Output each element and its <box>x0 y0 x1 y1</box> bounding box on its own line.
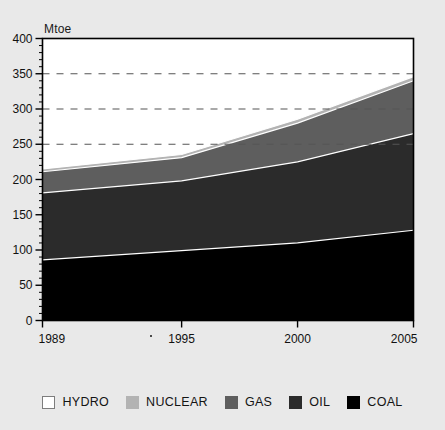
y-axis: 050100150200250300350400 <box>12 32 42 328</box>
y-tick-label-100: 100 <box>12 243 32 257</box>
x-tick-label-2000: 2000 <box>284 332 311 346</box>
legend-item-coal[interactable]: COAL <box>347 395 402 409</box>
x-tick-label-2005: 2005 <box>391 332 418 346</box>
y-tick-label-50: 50 <box>19 278 33 292</box>
legend-item-oil[interactable]: OIL <box>289 395 330 409</box>
y-tick-label-300: 300 <box>12 102 32 116</box>
y-tick-label-400: 400 <box>12 32 32 46</box>
y-tick-label-150: 150 <box>12 208 32 222</box>
legend-item-hydro[interactable]: HYDRO <box>42 395 109 409</box>
x-axis: 1989199520002005 <box>39 321 418 346</box>
x-tick-label-1995: 1995 <box>168 332 195 346</box>
stacked-area-plot: 050100150200250300350400 198919952000200… <box>0 0 445 430</box>
legend-item-nuclear[interactable]: NUCLEAR <box>126 395 208 409</box>
legend-label-coal: COAL <box>367 395 402 409</box>
x-tick-label-1989: 1989 <box>39 332 66 346</box>
legend-swatch-hydro-icon <box>42 396 55 409</box>
legend-swatch-nuclear-icon <box>126 396 139 409</box>
legend-swatch-gas-icon <box>225 396 238 409</box>
legend-item-gas[interactable]: GAS <box>225 395 272 409</box>
legend-swatch-oil-icon <box>289 396 302 409</box>
legend-label-oil: OIL <box>309 395 330 409</box>
y-tick-label-0: 0 <box>26 314 33 328</box>
legend-label-hydro: HYDRO <box>62 395 109 409</box>
y-tick-label-350: 350 <box>12 67 32 81</box>
chart-container: Mtoe 050100150200250300350400 1989199520… <box>0 0 445 430</box>
legend-label-nuclear: NUCLEAR <box>146 395 208 409</box>
y-tick-label-250: 250 <box>12 137 32 151</box>
legend-swatch-coal-icon <box>347 396 360 409</box>
y-tick-label-200: 200 <box>12 173 32 187</box>
chart-legend: HYDRONUCLEARGASOILCOAL <box>0 388 445 416</box>
legend-label-gas: GAS <box>245 395 272 409</box>
